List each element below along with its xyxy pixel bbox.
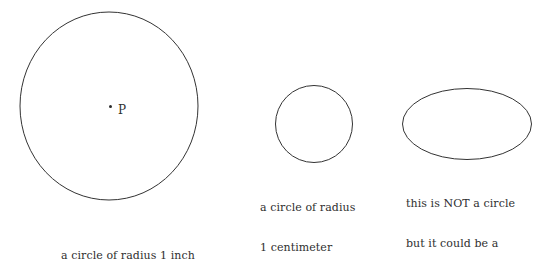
caption-large-circle: a circle of radius 1 inch centered at P <box>61 222 195 262</box>
caption-small-circle-line-1: a circle of radius <box>260 201 355 214</box>
center-point-dot <box>109 105 112 108</box>
small-circle-outline <box>276 86 353 163</box>
caption-small-circle-line-2: 1 centimeter <box>260 241 355 254</box>
geometry-figure: P a circle of radius 1 inch centered at … <box>0 0 549 262</box>
ellipse-outline <box>403 89 532 160</box>
caption-ellipse-line-1: this is NOT a circle <box>406 197 522 210</box>
center-point-label: P <box>118 104 126 116</box>
caption-ellipse-line-2: but it could be a <box>406 237 522 250</box>
caption-ellipse: this is NOT a circle but it could be a p… <box>406 170 522 262</box>
small-circle-shape <box>275 85 353 163</box>
ellipse-shape <box>402 88 532 160</box>
caption-small-circle: a circle of radius 1 centimeter <box>260 174 355 262</box>
caption-large-circle-line-1: a circle of radius 1 inch <box>61 249 195 262</box>
